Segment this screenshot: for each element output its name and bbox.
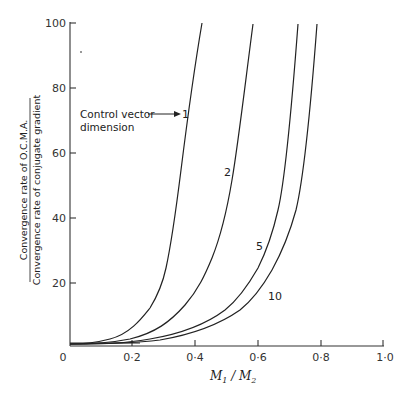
annotation-line-2: dimension [80, 121, 134, 133]
annotation-control-vector: Control vector dimension 1 [80, 108, 189, 133]
y-tick-100: 100 [45, 17, 66, 30]
arrowhead-icon [174, 111, 181, 117]
axes [70, 22, 384, 346]
x-tick-0-4: 0·4 [186, 351, 204, 364]
x-axis-label: M1 / M2 [209, 369, 256, 385]
y-tick-80: 80 [52, 82, 66, 95]
curve-label-1: 1 [182, 108, 189, 121]
y-tick-60: 60 [52, 147, 66, 160]
y-tick-20: 20 [52, 277, 66, 290]
curve-label-2: 2 [224, 166, 231, 179]
x-tick-1-0: 1·0 [376, 351, 394, 364]
x-tick-0: 0 [60, 351, 67, 364]
x-tick-0-2: 0·2 [123, 351, 141, 364]
x-tick-labels: 0 0·2 0·4 0·6 0·8 1·0 [60, 351, 394, 364]
y-axis-label: Convergence rate of O.C.M.A. Convergence… [18, 95, 42, 286]
x-tick-0-6: 0·6 [249, 351, 267, 364]
y-tick-40: 40 [52, 212, 66, 225]
curve-5 [70, 24, 298, 344]
curve-2 [70, 24, 253, 344]
curve-label-10: 10 [268, 290, 282, 303]
chart: 100 80 60 40 20 0 0·2 0·4 0·6 0·8 1·0 M1… [0, 0, 404, 399]
y-label-numerator: Convergence rate of O.C.M.A. [18, 120, 29, 260]
y-tick-labels: 100 80 60 40 20 [45, 17, 66, 290]
curve-label-5: 5 [256, 240, 263, 253]
y-label-denominator: Convergence rate of conjugate gradient [31, 95, 42, 286]
annotation-line-1: Control vector [80, 108, 155, 120]
curve-1 [70, 23, 202, 344]
x-tick-0-8: 0·8 [312, 351, 330, 364]
